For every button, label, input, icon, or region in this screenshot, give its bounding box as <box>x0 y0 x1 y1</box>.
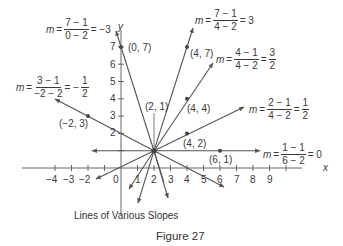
x-tick-label: 3 <box>168 175 174 185</box>
slope-eq-3-2: m= 4 − 14 − 2 = 32 <box>216 48 278 71</box>
slope-eq-3: m= 7 − 14 − 2 = 3 <box>195 9 254 32</box>
x-tick-label: −2 <box>79 175 90 185</box>
point-label-6-1: (6, 1) <box>209 155 232 165</box>
point-label-neg2-3: (−2, 3) <box>59 119 88 129</box>
y-axis-label: y <box>118 22 123 32</box>
x-tick-label: 6 <box>217 175 223 185</box>
point-label-4-4: (4, 4) <box>187 104 210 114</box>
x-axis-label: x <box>323 163 328 173</box>
x-tick-label: 2 <box>151 175 157 185</box>
point-label-4-7: (4, 7) <box>190 49 213 59</box>
y-tick-label: 5 <box>110 77 116 87</box>
x-tick-label: 7 <box>234 175 240 185</box>
slope-eq-0: m= 1 − 16 − 2 = 0 <box>263 143 322 166</box>
x-tick-label: −4 <box>46 175 57 185</box>
point-4-2 <box>185 131 189 135</box>
y-tick-label: 3 <box>110 111 116 121</box>
x-tick-label: 1 <box>135 175 141 185</box>
point-2-1 <box>152 148 157 153</box>
x-tick-label: 9 <box>267 175 273 185</box>
y-tick-label: 4 <box>110 94 116 104</box>
point-label-2-1: (2, 1) <box>145 102 168 112</box>
point-4-4 <box>185 97 189 101</box>
x-tick-label: −3 <box>63 175 74 185</box>
slope-eq-1-2: m= 2 − 14 − 2 = 12 <box>249 98 311 121</box>
x-tick-label: 0 <box>113 175 119 185</box>
x-tick-label: 8 <box>250 175 256 185</box>
y-tick-label: 6 <box>110 60 116 70</box>
slope-eq-neg1-2: m= 3 − 1−2 − 2 = − 12 <box>16 76 91 99</box>
point-4-7 <box>185 45 189 49</box>
slope-eq-neg3: m= 7 − 10 − 2 = −3 <box>46 18 111 41</box>
point-label-4-2: (4, 2) <box>183 139 206 149</box>
point-0-7 <box>119 45 123 49</box>
figure-title: Figure 27 <box>156 230 205 242</box>
point-label-0-7: (0, 7) <box>128 43 151 53</box>
y-tick-label: 7 <box>110 42 116 52</box>
y-tick-label: 2 <box>110 128 116 138</box>
figure-caption: Lines of Various Slopes <box>74 210 178 221</box>
x-tick-label: 4 <box>184 175 190 185</box>
point-6-1 <box>218 149 222 153</box>
x-tick-label: 5 <box>201 175 207 185</box>
